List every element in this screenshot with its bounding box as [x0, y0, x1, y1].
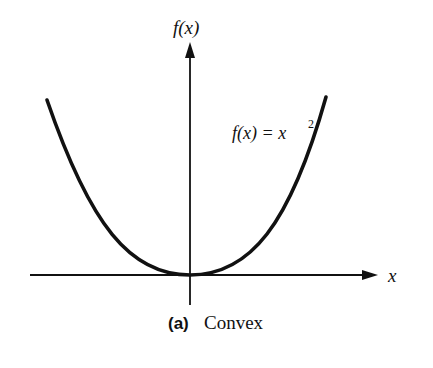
- caption-text: Convex: [204, 312, 264, 333]
- x-axis-arrow-icon: [362, 270, 378, 280]
- curve-label-exponent: 2: [308, 117, 314, 131]
- curve-label: f(x) = x: [232, 123, 286, 144]
- y-axis-label: f(x): [173, 17, 199, 39]
- convex-function-figure: f(x) x f(x) = x 2 (a) Convex: [0, 0, 433, 368]
- x-axis-label: x: [387, 265, 397, 286]
- caption-marker: (a): [168, 314, 189, 333]
- y-axis-arrow-icon: [185, 42, 195, 58]
